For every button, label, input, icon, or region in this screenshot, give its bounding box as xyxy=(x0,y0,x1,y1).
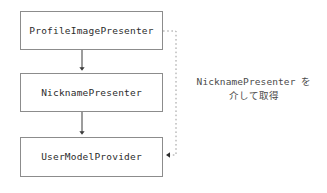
connector-profile-to-usermodel-dotted xyxy=(163,31,176,155)
annotation-line-1: NicknamePresenter を xyxy=(186,75,322,89)
node-profile-image-presenter[interactable]: ProfileImagePresenter xyxy=(20,11,163,50)
node-label: ProfileImagePresenter xyxy=(29,26,153,36)
annotation-via-nickname-presenter: NicknamePresenter を 介して取得 xyxy=(186,75,322,103)
annotation-line-2: 介して取得 xyxy=(186,89,322,103)
node-nickname-presenter[interactable]: NicknamePresenter xyxy=(20,73,163,112)
node-label: NicknamePresenter xyxy=(41,88,142,98)
diagram-canvas: ProfileImagePresenter NicknamePresenter … xyxy=(0,0,327,193)
node-label: UserModelProvider xyxy=(41,152,142,162)
node-user-model-provider[interactable]: UserModelProvider xyxy=(20,137,163,177)
